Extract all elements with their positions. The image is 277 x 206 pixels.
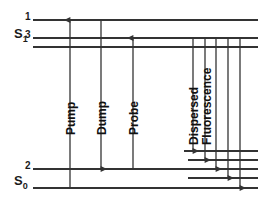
emission-label-dispersed: Dispersed [187, 87, 201, 145]
transition-label-dump: Dump [95, 101, 109, 135]
transition-label-pump: Pump [64, 102, 78, 135]
transition-label-probe: Probe [127, 101, 141, 135]
level-label-3: 3 [25, 29, 31, 40]
energy-level-diagram: S1 S0 1 3 2 Pump Dump Probe Dispersed Fl… [0, 0, 277, 206]
level-label-2: 2 [25, 160, 31, 171]
state-label-s0: S0 [14, 173, 28, 191]
emission-label-fluorescence: Fluorescence [200, 68, 214, 145]
level-label-1: 1 [25, 11, 31, 22]
